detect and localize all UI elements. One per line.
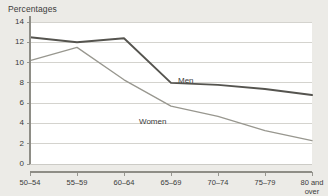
y-axis-tick-label: 2 xyxy=(4,140,24,148)
y-axis-tick-label: 12 xyxy=(4,38,24,46)
axis-lines xyxy=(30,16,312,172)
x-axis-tick-label: 55–59 xyxy=(54,178,100,187)
gridlines xyxy=(30,22,312,164)
y-axis-tick-label: 4 xyxy=(4,119,24,127)
y-axis-tick-label: 8 xyxy=(4,79,24,87)
plot-area xyxy=(30,22,312,164)
x-axis-tick-label: 75–79 xyxy=(242,178,288,187)
plot-canvas xyxy=(30,22,312,164)
y-axis-tick-label: 6 xyxy=(4,99,24,107)
x-axis-tick-label: 60–64 xyxy=(101,178,147,187)
x-axis-tick-label: 65–69 xyxy=(148,178,194,187)
y-axis-tick-label: 10 xyxy=(4,59,24,67)
chart-title: Percentages xyxy=(8,4,57,14)
series-label-women: Women xyxy=(139,117,166,126)
y-axis-tick-label: 14 xyxy=(4,18,24,26)
series-label-men: Men xyxy=(178,76,194,85)
series-lines xyxy=(30,37,312,140)
x-axis-tick-label: 80 and over xyxy=(289,178,328,196)
x-axis-tick-label: 70–74 xyxy=(195,178,241,187)
x-axis-tick-label: 50–54 xyxy=(7,178,53,187)
series-line-women xyxy=(30,47,312,140)
y-axis-tick-label: 0 xyxy=(4,160,24,168)
series-line-men xyxy=(30,37,312,95)
